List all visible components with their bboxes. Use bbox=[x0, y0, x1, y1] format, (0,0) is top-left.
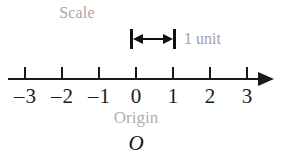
tick-digit: 1 bbox=[100, 84, 111, 108]
tick-digit: 3 bbox=[242, 84, 253, 108]
unit-length-caption: 1 unit bbox=[184, 29, 221, 49]
tick-label-0: 0 bbox=[131, 85, 142, 108]
tick-digit: 2 bbox=[63, 84, 74, 108]
number-line-axis bbox=[0, 60, 282, 86]
tick-label-1: 1 bbox=[168, 85, 179, 108]
minus-sign-icon: – bbox=[51, 85, 62, 108]
tick-label-3: 3 bbox=[242, 85, 253, 108]
number-line-axis-graphic bbox=[0, 60, 282, 86]
number-line-figure: Scale 1 unit bbox=[0, 0, 282, 162]
tick-digit: 1 bbox=[168, 84, 179, 108]
scale-caption: Scale bbox=[0, 4, 282, 22]
minus-sign-icon: – bbox=[88, 85, 99, 108]
tick-digit: 3 bbox=[26, 84, 37, 108]
origin-caption: Origin bbox=[114, 108, 158, 128]
tick-label-row: –3 –2 –1 0 1 2 3 bbox=[0, 85, 282, 109]
unit-measure-bracket bbox=[129, 28, 181, 50]
origin-letter-label: O bbox=[128, 131, 143, 155]
minus-sign-icon: – bbox=[14, 85, 25, 108]
tick-label--2: –2 bbox=[51, 85, 73, 108]
tick-label--3: –3 bbox=[14, 85, 36, 108]
tick-label-2: 2 bbox=[205, 85, 216, 108]
tick-digit: 0 bbox=[131, 84, 142, 108]
unit-measure-bracket-graphic bbox=[129, 28, 181, 50]
tick-label--1: –1 bbox=[88, 85, 110, 108]
tick-digit: 2 bbox=[205, 84, 216, 108]
